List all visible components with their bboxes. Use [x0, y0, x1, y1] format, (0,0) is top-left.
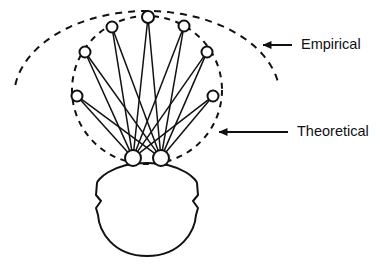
sensor-node: [179, 21, 190, 32]
connection-line: [88, 56, 157, 152]
sensor-node: [72, 91, 83, 102]
connection-line: [134, 22, 148, 150]
empirical-label: Empirical: [301, 36, 361, 52]
diagram-canvas: Empirical Theoretical: [0, 0, 380, 264]
connection-lines: [80, 22, 209, 153]
theoretical-annotation: Theoretical: [219, 123, 369, 139]
sensor-node: [208, 91, 219, 102]
sensor-node: [142, 11, 154, 23]
connection-line: [166, 100, 210, 152]
connection-line: [87, 57, 130, 152]
base-node: [153, 150, 169, 166]
eeg-source-diagram: Empirical Theoretical: [0, 0, 380, 264]
connection-line: [80, 100, 128, 153]
theoretical-curve: [72, 16, 222, 164]
sensor-node: [80, 47, 91, 58]
sensor-node: [202, 47, 213, 58]
sensor-node: [107, 22, 118, 33]
sensor-node-group: [72, 11, 219, 102]
head-outline: [96, 163, 198, 256]
connection-line: [81, 99, 155, 154]
base-node: [125, 150, 141, 166]
empirical-annotation: Empirical: [263, 36, 361, 52]
theoretical-label: Theoretical: [297, 123, 369, 139]
